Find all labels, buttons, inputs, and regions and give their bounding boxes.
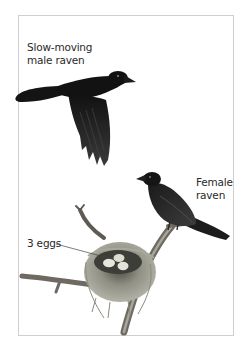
egg-2 [114,254,125,262]
male-raven-label: Slow-moving male raven [27,41,92,66]
female-raven-label-line2: raven [196,189,233,202]
eggs-label-text: 3 eggs [27,237,61,250]
female-raven-label-line1: Female [196,176,233,189]
flying-male-raven [15,71,136,166]
egg-1 [103,259,115,267]
female-raven-label: Female raven [196,176,233,201]
eggs-label: 3 eggs [27,237,61,250]
egg-3 [118,262,129,270]
male-raven-label-line2: male raven [27,54,92,67]
male-raven-label-line1: Slow-moving [27,41,92,54]
nest [84,242,156,318]
